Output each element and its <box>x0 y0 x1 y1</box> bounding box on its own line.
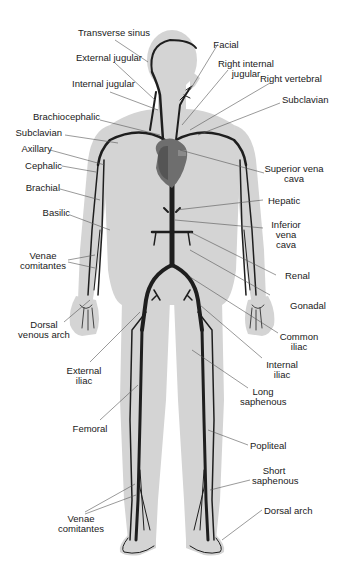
venous-system-diagram: Transverse sinus External jugular Intern… <box>0 0 342 575</box>
label-brachiocephalic: Brachiocephalic <box>30 112 100 122</box>
label-external-jugular: External jugular <box>76 53 128 63</box>
label-subclavian-left: Subclavian <box>10 128 62 138</box>
label-common-iliac: Common iliac <box>277 332 321 352</box>
label-gonadal: Gonadal <box>290 301 326 311</box>
label-superior-vena-cava: Superior vena cava <box>262 164 326 184</box>
label-femoral: Femoral <box>70 424 110 434</box>
label-axillary: Axillary <box>10 144 52 154</box>
label-inferior-vena-cava: Inferior vena cava <box>268 220 304 250</box>
label-renal: Renal <box>285 271 310 281</box>
label-long-saphenous: Long saphenous <box>240 387 286 407</box>
label-popliteal: Popliteal <box>250 441 286 451</box>
label-hepatic: Hepatic <box>268 196 300 206</box>
label-external-iliac: External iliac <box>64 366 104 386</box>
label-transverse-sinus: Transverse sinus <box>78 28 148 38</box>
label-basilic: Basilic <box>20 208 70 218</box>
label-right-vertebral: Right vertebral <box>260 74 322 84</box>
label-short-saphenous: Short saphenous <box>252 466 296 486</box>
label-subclavian-right: Subclavian <box>282 95 328 105</box>
label-dorsal-arch: Dorsal arch <box>264 506 313 516</box>
body-silhouette <box>0 0 342 575</box>
label-venae-comitantes-leg: Venae comitantes <box>54 514 108 534</box>
label-cephalic: Cephalic <box>10 161 62 171</box>
label-internal-jugular: Internal jugular <box>72 79 118 89</box>
label-dorsal-venous-arch: Dorsal venous arch <box>16 320 72 340</box>
label-venae-comitantes-arm: Venae comitantes <box>20 251 66 271</box>
label-brachial: Brachial <box>10 183 60 193</box>
label-facial: Facial <box>208 40 244 50</box>
label-internal-iliac: Internal iliac <box>262 360 302 380</box>
